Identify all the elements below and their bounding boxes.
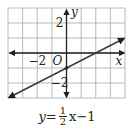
y-tick-label: −2	[51, 76, 69, 90]
caption-equals: =	[46, 109, 57, 124]
caption-constant: −1	[76, 109, 95, 124]
x-axis-label: x	[116, 54, 123, 68]
y-intercept-point	[65, 66, 69, 70]
caption-variable: x	[69, 109, 76, 124]
axis-labels: −22−2Oxy	[28, 5, 122, 90]
coordinate-plane: −22−2Oxy	[0, 0, 134, 104]
equation-caption: y = 1 2 x −1	[0, 106, 134, 127]
caption-lhs: y	[38, 109, 45, 124]
fraction-denominator: 2	[60, 117, 66, 127]
line-graph-figure: −22−2Oxy y = 1 2 x −1	[0, 0, 134, 136]
y-axis-label: y	[70, 5, 78, 19]
y-tick-label: 2	[56, 16, 64, 30]
origin-label: O	[53, 54, 63, 68]
caption-fraction: 1 2	[59, 106, 67, 127]
x-tick-label: −2	[28, 54, 46, 68]
